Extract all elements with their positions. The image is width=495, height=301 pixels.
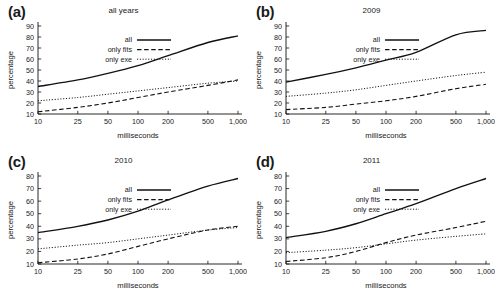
y-tick-label: 80 — [274, 33, 282, 42]
y-axis-label: percentage — [254, 201, 263, 239]
y-tick-label: 70 — [26, 184, 34, 193]
y-tick-label: 60 — [26, 197, 34, 206]
y-tick-label: 60 — [26, 55, 34, 64]
x-tick-label: 100 — [132, 117, 144, 126]
panel-b: (b) 2009 1020304050607080901025501002005… — [248, 0, 495, 150]
series-line-only-exe — [38, 228, 238, 249]
series-line-only-fits — [38, 226, 238, 262]
axis-lines — [38, 22, 242, 114]
x-tick-label: 1,000 — [229, 117, 247, 126]
x-tick-label: 10 — [34, 117, 42, 126]
series-line-all — [38, 179, 238, 233]
y-tick-label: 80 — [274, 172, 282, 181]
y-tick-label: 40 — [274, 77, 282, 86]
chart-svg: 1020304050607080901025501002005001,000mi… — [248, 0, 495, 150]
plot-area-b: 1020304050607080901025501002005001,000mi… — [248, 0, 495, 150]
series-line-only-exe — [286, 234, 486, 253]
x-tick-label: 25 — [322, 267, 330, 276]
y-tick-label: 20 — [26, 247, 34, 256]
legend-label-only-exe: only exe — [353, 55, 380, 64]
y-tick-label: 30 — [274, 234, 282, 243]
x-tick-label: 1,000 — [477, 117, 495, 126]
x-tick-label: 200 — [410, 267, 422, 276]
x-axis-label: milliseconds — [365, 131, 407, 140]
legend-label-all: all — [373, 35, 381, 44]
y-tick-label: 50 — [274, 66, 282, 75]
y-tick-label: 20 — [26, 99, 34, 108]
plot-area-d: 10203040506070801025501002005001,000mill… — [248, 150, 495, 300]
x-axis-label: milliseconds — [117, 131, 159, 140]
legend-label-all: all — [125, 35, 133, 44]
series-line-all — [286, 179, 486, 238]
chart-svg: 10203040506070801025501002005001,000mill… — [0, 150, 247, 300]
y-tick-label: 20 — [274, 99, 282, 108]
y-axis-label: percentage — [254, 51, 263, 89]
x-tick-label: 100 — [380, 117, 392, 126]
x-tick-label: 200 — [162, 267, 174, 276]
panel-a: (a) all years 10203040506070809010255010… — [0, 0, 247, 150]
legend-label-only-fits: only fits — [108, 195, 133, 204]
x-tick-label: 10 — [282, 117, 290, 126]
y-tick-label: 50 — [274, 209, 282, 218]
panel-d: (d) 2011 1020304050607080102550100200500… — [248, 150, 495, 300]
x-tick-label: 50 — [104, 267, 112, 276]
x-tick-label: 50 — [104, 117, 112, 126]
chart-svg: 10203040506070801025501002005001,000mill… — [248, 150, 495, 300]
y-tick-label: 20 — [274, 247, 282, 256]
y-tick-label: 30 — [274, 88, 282, 97]
x-tick-label: 500 — [202, 117, 214, 126]
x-tick-label: 50 — [352, 267, 360, 276]
x-tick-label: 500 — [450, 117, 462, 126]
x-tick-label: 200 — [410, 117, 422, 126]
legend-label-only-exe: only exe — [353, 205, 380, 214]
x-axis-label: milliseconds — [365, 281, 407, 290]
x-tick-label: 100 — [132, 267, 144, 276]
series-line-only-fits — [286, 84, 486, 109]
y-tick-label: 30 — [26, 88, 34, 97]
plot-area-c: 10203040506070801025501002005001,000mill… — [0, 150, 247, 300]
y-tick-label: 40 — [26, 77, 34, 86]
y-tick-label: 70 — [274, 44, 282, 53]
x-tick-label: 10 — [282, 267, 290, 276]
y-tick-label: 10 — [26, 260, 34, 269]
legend-label-all: all — [125, 185, 133, 194]
legend-label-only-exe: only exe — [105, 55, 132, 64]
plot-area-a: 1020304050607080901025501002005001,000mi… — [0, 0, 247, 150]
y-tick-label: 10 — [274, 110, 282, 119]
x-tick-label: 10 — [34, 267, 42, 276]
legend-label-only-fits: only fits — [356, 45, 381, 54]
x-tick-label: 500 — [202, 267, 214, 276]
y-tick-label: 70 — [274, 184, 282, 193]
legend-label-only-fits: only fits — [356, 195, 381, 204]
panel-c: (c) 2010 1020304050607080102550100200500… — [0, 150, 247, 300]
y-tick-label: 10 — [26, 110, 34, 119]
legend-label-only-exe: only exe — [105, 205, 132, 214]
x-tick-label: 25 — [74, 117, 82, 126]
x-tick-label: 500 — [450, 267, 462, 276]
y-tick-label: 50 — [26, 66, 34, 75]
y-tick-label: 90 — [274, 22, 282, 31]
x-tick-label: 25 — [322, 117, 330, 126]
y-axis-label: percentage — [6, 201, 15, 239]
series-line-all — [38, 36, 238, 87]
y-tick-label: 60 — [274, 55, 282, 64]
x-tick-label: 50 — [352, 117, 360, 126]
y-tick-label: 80 — [26, 172, 34, 181]
legend-label-all: all — [373, 185, 381, 194]
x-tick-label: 1,000 — [229, 267, 247, 276]
x-tick-label: 1,000 — [477, 267, 495, 276]
x-tick-label: 100 — [380, 267, 392, 276]
legend-label-only-fits: only fits — [108, 45, 133, 54]
x-tick-label: 200 — [162, 117, 174, 126]
series-line-only-fits — [38, 80, 238, 112]
y-tick-label: 60 — [274, 197, 282, 206]
chart-svg: 1020304050607080901025501002005001,000mi… — [0, 0, 247, 150]
series-line-only-fits — [286, 221, 486, 261]
axis-lines — [286, 172, 490, 264]
x-axis-label: milliseconds — [117, 281, 159, 290]
y-tick-label: 10 — [274, 260, 282, 269]
axis-lines — [38, 172, 242, 264]
y-tick-label: 40 — [26, 222, 34, 231]
x-tick-label: 25 — [74, 267, 82, 276]
y-tick-label: 50 — [26, 209, 34, 218]
